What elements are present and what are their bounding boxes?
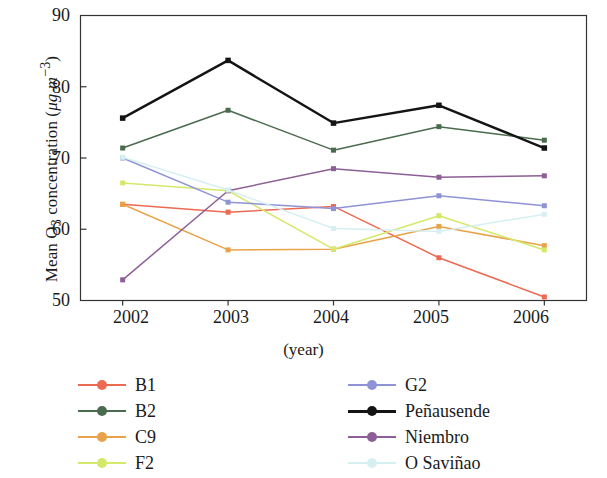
y-tick-70: 70 <box>30 149 70 167</box>
series-c9 <box>120 202 547 253</box>
data-point-marker <box>226 247 231 252</box>
legend-column-left: B1B2C9F2 <box>78 372 156 476</box>
legend-swatch-icon <box>348 456 396 470</box>
data-point-marker <box>542 145 548 151</box>
series-niembro <box>120 166 547 282</box>
legend-item-niembro[interactable]: Niembro <box>348 424 490 450</box>
x-tick-2005: 2005 <box>396 308 466 326</box>
x-axis-label: (year) <box>0 340 607 360</box>
legend-label: C9 <box>135 427 156 447</box>
legend-label: B1 <box>135 375 156 395</box>
data-point-marker <box>436 229 441 234</box>
data-point-marker <box>542 243 547 248</box>
series-line <box>123 183 545 250</box>
legend-marker-dot-icon <box>367 432 377 442</box>
y-axis-label: Mean O3 concentration (μg m−3) <box>37 14 65 324</box>
series-line <box>123 157 545 231</box>
legend-marker-dot-icon <box>367 458 377 468</box>
ozone-line-chart-figure: Mean O3 concentration (μg m−3) 90 80 70 … <box>0 0 607 478</box>
data-point-marker <box>436 213 441 218</box>
data-point-marker <box>436 224 441 229</box>
data-point-marker <box>542 173 547 178</box>
data-point-marker <box>331 166 336 171</box>
legend-label: O Saviñao <box>405 453 481 473</box>
series-line <box>123 60 545 148</box>
legend-item-f2[interactable]: F2 <box>78 450 156 476</box>
legend-swatch-icon <box>348 404 396 418</box>
legend-label: G2 <box>405 375 427 395</box>
legend: B1B2C9F2 G2PeñausendeNiembroO Saviñao <box>0 372 607 478</box>
data-point-marker <box>226 188 231 193</box>
data-point-marker <box>331 226 336 231</box>
data-point-marker <box>331 204 336 209</box>
y-tick-90: 90 <box>30 6 70 24</box>
legend-swatch-icon <box>78 378 126 392</box>
legend-item-g2[interactable]: G2 <box>348 372 490 398</box>
legend-column-right: G2PeñausendeNiembroO Saviñao <box>348 372 490 476</box>
series-b1 <box>120 202 547 300</box>
y-axis-label-exponent: −3 <box>37 62 53 77</box>
x-tick-2002: 2002 <box>96 308 166 326</box>
data-point-marker <box>331 120 337 126</box>
data-point-marker <box>226 210 231 215</box>
data-point-marker <box>331 247 336 252</box>
series-line <box>123 204 545 297</box>
plot-frame <box>81 16 587 301</box>
legend-swatch-icon <box>78 456 126 470</box>
data-point-marker <box>331 148 336 153</box>
data-point-marker <box>226 200 231 205</box>
series-b2 <box>120 108 547 153</box>
series-o-saviñao <box>120 155 547 234</box>
legend-item-b1[interactable]: B1 <box>78 372 156 398</box>
legend-marker-dot-icon <box>97 458 107 468</box>
legend-item-b2[interactable]: B2 <box>78 398 156 424</box>
data-point-marker <box>436 175 441 180</box>
legend-label: F2 <box>135 453 154 473</box>
data-point-marker <box>436 124 441 129</box>
data-point-marker <box>226 188 231 193</box>
series-line <box>123 110 545 150</box>
x-tick-2006: 2006 <box>496 308 566 326</box>
data-point-marker <box>542 294 547 299</box>
data-point-marker <box>120 180 125 185</box>
data-point-marker <box>120 202 125 207</box>
data-point-marker <box>120 115 126 121</box>
x-tick-2004: 2004 <box>296 308 366 326</box>
legend-swatch-icon <box>348 430 396 444</box>
series-peñausende <box>120 58 547 151</box>
data-point-marker <box>436 255 441 260</box>
data-point-marker <box>226 108 231 113</box>
data-point-marker <box>225 58 231 64</box>
y-tick-50: 50 <box>30 291 70 309</box>
data-point-marker <box>120 202 125 207</box>
data-point-marker <box>542 212 547 217</box>
legend-item-o-saviñao[interactable]: O Saviñao <box>348 450 490 476</box>
x-axis-tick-marks <box>123 301 545 306</box>
legend-item-peñausende[interactable]: Peñausende <box>348 398 490 424</box>
data-point-marker <box>331 247 336 252</box>
data-point-marker <box>542 203 547 208</box>
data-point-marker <box>436 103 442 109</box>
y-axis-label-suffix: ) <box>42 56 61 62</box>
legend-marker-dot-icon <box>367 380 377 390</box>
series-g2 <box>120 156 547 212</box>
data-point-marker <box>542 247 547 252</box>
data-point-marker <box>120 156 125 161</box>
legend-marker-dot-icon <box>97 432 107 442</box>
series-layer <box>120 58 547 300</box>
data-point-marker <box>120 277 125 282</box>
legend-label: B2 <box>135 401 156 421</box>
series-f2 <box>120 180 547 252</box>
legend-item-c9[interactable]: C9 <box>78 424 156 450</box>
data-point-marker <box>120 155 125 160</box>
legend-label: Niembro <box>405 427 469 447</box>
series-line <box>123 204 545 250</box>
data-point-marker <box>436 193 441 198</box>
legend-swatch-icon <box>78 430 126 444</box>
legend-marker-dot-icon <box>97 406 107 416</box>
legend-swatch-icon <box>78 404 126 418</box>
y-tick-80: 80 <box>30 78 70 96</box>
legend-marker-dot-icon <box>367 406 377 416</box>
data-point-marker <box>226 188 231 193</box>
y-axis-tick-marks <box>81 87 87 230</box>
